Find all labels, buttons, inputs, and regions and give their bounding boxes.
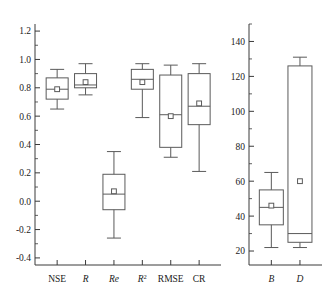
right-x-label: B — [268, 274, 274, 284]
box-plot-D — [288, 57, 312, 247]
box-plot-NSE — [46, 69, 68, 109]
mean-marker — [140, 80, 145, 85]
right-y-tick-label: 80 — [236, 142, 246, 152]
left-x-label: R — [82, 274, 89, 284]
box-iqr — [160, 75, 182, 147]
left-y-tick-label: 0.6 — [19, 112, 31, 122]
mean-marker — [298, 179, 303, 184]
right-y-tick-label: 60 — [236, 177, 246, 187]
box-iqr — [288, 66, 312, 242]
left-y-tick-label: 1.0 — [19, 55, 31, 65]
box-plot-R — [75, 64, 97, 95]
left-x-label: R2 — [137, 273, 147, 285]
box-plot-R2 — [131, 64, 153, 118]
left-y-tick-label: 0.4 — [19, 140, 31, 150]
mean-marker — [168, 114, 173, 119]
left-x-label: NSE — [48, 274, 66, 284]
left-y-tick-label: 0.0 — [19, 197, 31, 207]
mean-marker — [55, 87, 60, 92]
box-plot-CR — [188, 64, 210, 172]
right-x-label: D — [296, 274, 304, 284]
left-y-tick-label: 0.8 — [19, 83, 31, 93]
left-x-label: Re — [108, 274, 119, 284]
left-y-tick-label: 1.2 — [19, 26, 31, 36]
mean-marker — [269, 203, 274, 208]
left-y-tick-label: 0.2 — [19, 168, 31, 178]
box-iqr — [188, 74, 210, 125]
mean-marker — [112, 189, 117, 194]
chart-canvas: -0.4-0.20.00.20.40.60.81.01.2NSERReR2RMS… — [0, 0, 328, 306]
box-plot-Re — [103, 152, 125, 238]
right-y-tick-label: 20 — [236, 246, 246, 256]
right-y-tick-label: 40 — [236, 212, 246, 222]
boxplot-figure: -0.4-0.20.00.20.40.60.81.01.2NSERReR2RMS… — [0, 0, 328, 306]
mean-marker — [197, 101, 202, 106]
right-y-tick-label: 120 — [231, 72, 246, 82]
left-y-tick-label: -0.4 — [16, 253, 31, 263]
mean-marker — [83, 80, 88, 85]
box-plot-RMSE — [160, 65, 182, 157]
left-y-tick-label: -0.2 — [16, 225, 31, 235]
right-y-tick-label: 100 — [231, 107, 246, 117]
left-x-label: CR — [193, 274, 206, 284]
right-y-tick-label: 140 — [231, 37, 246, 47]
box-plot-B — [259, 172, 283, 247]
left-x-label: RMSE — [158, 274, 184, 284]
